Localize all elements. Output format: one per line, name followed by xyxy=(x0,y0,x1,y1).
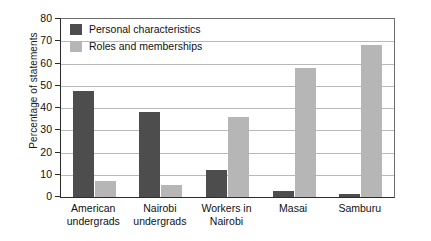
bar-group xyxy=(273,19,316,197)
x-tick-label-line: Samburu xyxy=(338,202,381,215)
y-tick-label: 0 xyxy=(26,191,52,202)
bar xyxy=(339,194,360,197)
x-tick-label-line: undergrads xyxy=(133,215,186,228)
y-tick-label: 60 xyxy=(26,57,52,68)
x-tick-label: Workers inNairobi xyxy=(202,202,252,228)
bar xyxy=(161,185,182,197)
x-tick-label-line: Workers in xyxy=(202,202,252,215)
y-tick-label: 40 xyxy=(26,102,52,113)
x-tick-label-line: Masai xyxy=(279,202,307,215)
y-tick-mark xyxy=(55,196,60,197)
bar xyxy=(295,68,316,197)
y-tick-label: 50 xyxy=(26,80,52,91)
legend-label: Personal characteristics xyxy=(89,24,200,35)
x-tick-label-line: undergrads xyxy=(67,215,120,228)
y-tick-mark xyxy=(55,40,60,41)
bar xyxy=(73,91,94,197)
chart-legend: Personal characteristicsRoles and member… xyxy=(70,22,202,56)
x-tick-label: Masai xyxy=(279,202,307,215)
bar-group xyxy=(206,19,249,197)
bar-group xyxy=(339,19,382,197)
bar xyxy=(273,191,294,197)
y-tick-label: 10 xyxy=(26,169,52,180)
y-tick-mark xyxy=(55,152,60,153)
bar xyxy=(228,117,249,197)
y-axis-tick-labels: 80706050403020100 xyxy=(26,0,52,241)
legend-item: Roles and memberships xyxy=(70,39,202,54)
y-tick-mark xyxy=(55,63,60,64)
legend-swatch-icon xyxy=(70,24,82,35)
bar xyxy=(206,170,227,197)
x-tick-label-line: Nairobi xyxy=(133,202,186,215)
y-tick-mark xyxy=(55,107,60,108)
x-tick-label: Americanundergrads xyxy=(67,202,120,228)
y-tick-mark xyxy=(55,174,60,175)
legend-swatch-icon xyxy=(70,41,82,52)
y-tick-mark xyxy=(55,85,60,86)
x-tick-label-line: American xyxy=(67,202,120,215)
y-tick-label: 70 xyxy=(26,35,52,46)
bar xyxy=(361,45,382,197)
x-tick-label: Samburu xyxy=(338,202,381,215)
legend-label: Roles and memberships xyxy=(89,41,202,52)
x-tick-label-line: Nairobi xyxy=(202,215,252,228)
x-tick-label: Nairobiundergrads xyxy=(133,202,186,228)
bar xyxy=(139,112,160,197)
y-tick-mark xyxy=(55,129,60,130)
legend-item: Personal characteristics xyxy=(70,22,202,37)
y-tick-label: 30 xyxy=(26,124,52,135)
x-axis-tick-labels: AmericanundergradsNairobiundergradsWorke… xyxy=(60,202,393,240)
y-tick-label: 80 xyxy=(26,13,52,24)
y-tick-mark xyxy=(55,18,60,19)
y-tick-label: 20 xyxy=(26,146,52,157)
bar-chart-figure: Percentage of statements 807060504030201… xyxy=(0,0,431,241)
bar xyxy=(95,181,116,197)
